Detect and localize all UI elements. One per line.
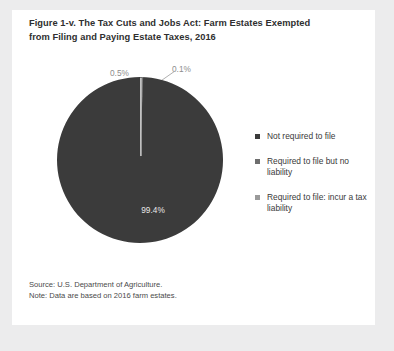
figure-notes: Source: U.S. Department of Agriculture. … <box>29 279 177 302</box>
data-label-slice-1: 99.4% <box>123 205 183 215</box>
legend-label: Not required to file <box>267 131 335 141</box>
legend-swatch-icon <box>255 195 260 200</box>
figure-card: Figure 1-v. The Tax Cuts and Jobs Act: F… <box>12 10 375 325</box>
legend-label: Required to file: incur a tax liability <box>267 192 367 214</box>
pie-graphic: 99.4% <box>57 77 223 243</box>
legend-item-not-required-to-file: Not required to file <box>255 131 373 143</box>
legend-label: Required to file but no liability <box>267 156 349 178</box>
legend-swatch-icon <box>255 134 260 139</box>
source-note: Source: U.S. Department of Agriculture. <box>29 279 177 290</box>
chart-legend: Not required to file Required to file bu… <box>255 131 373 228</box>
legend-item-required-tax-liability: Required to file: incur a tax liability <box>255 192 373 215</box>
legend-item-required-no-liability: Required to file but no liability <box>255 156 373 179</box>
pie-slices <box>57 77 223 243</box>
data-note: Note: Data are based on 2016 farm estate… <box>29 290 177 301</box>
legend-swatch-icon <box>255 159 260 164</box>
